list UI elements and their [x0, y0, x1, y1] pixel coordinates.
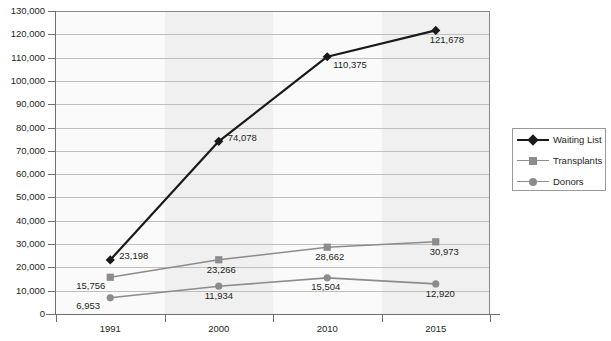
data-point-label: 121,678 [430, 35, 464, 45]
y-axis-tick [48, 104, 56, 105]
y-axis-tick [48, 128, 56, 129]
y-axis-tick [48, 11, 56, 12]
y-axis-tick-label: 10,000 [0, 286, 45, 296]
y-axis-tick [48, 197, 56, 198]
legend-label: Waiting List [549, 134, 602, 145]
x-axis-tick-label: 1991 [80, 324, 140, 334]
data-point-label: 28,662 [315, 252, 344, 262]
data-point-label: 12,920 [426, 289, 455, 299]
y-axis-tick-label: 90,000 [0, 99, 45, 109]
legend-label: Donors [549, 176, 584, 187]
gridline [56, 151, 490, 152]
background-band [382, 11, 491, 314]
data-point-label: 23,266 [207, 265, 236, 275]
legend-key [517, 154, 549, 168]
y-axis-tick-label: 100,000 [0, 76, 45, 86]
legend-key [517, 133, 549, 147]
gridline [56, 34, 490, 35]
y-axis-tick-label: 130,000 [0, 6, 45, 16]
gridline [56, 104, 490, 105]
gridline [56, 174, 490, 175]
x-axis-tick [273, 314, 274, 322]
x-axis-tick [490, 314, 491, 322]
y-axis-tick-label: 110,000 [0, 53, 45, 63]
data-point-label: 11,934 [205, 291, 233, 301]
gridline [56, 58, 490, 59]
chart-figure: 010,00020,00030,00040,00050,00060,00070,… [0, 0, 611, 341]
y-axis-tick-label: 20,000 [0, 262, 45, 272]
gridline [56, 197, 490, 198]
y-axis-tick [48, 291, 56, 292]
data-point-label: 15,756 [76, 281, 105, 291]
diamond-marker-icon [527, 134, 538, 145]
y-axis-tick [48, 151, 56, 152]
data-point-label: 30,973 [430, 247, 459, 257]
y-axis-tick-label: 60,000 [0, 169, 45, 179]
legend-item-donors[interactable]: Donors [513, 171, 607, 192]
gridline [56, 81, 490, 82]
y-axis-tick [48, 244, 56, 245]
legend-item-transplants[interactable]: Transplants [513, 150, 607, 171]
data-point-label: 6,953 [76, 301, 100, 311]
x-axis-tick-label: 2010 [297, 324, 357, 334]
square-marker-icon [529, 157, 537, 165]
y-axis-tick-label: 0 [0, 309, 45, 319]
gridline [56, 244, 490, 245]
gridline [56, 128, 490, 129]
y-axis-tick [48, 34, 56, 35]
x-axis-tick [382, 314, 383, 322]
y-axis-tick-label: 120,000 [0, 29, 45, 39]
y-axis-tick-label: 30,000 [0, 239, 45, 249]
y-axis-tick [48, 267, 56, 268]
y-axis-tick-label: 50,000 [0, 192, 45, 202]
y-axis-tick [48, 58, 56, 59]
y-axis-tick [48, 174, 56, 175]
gridline [56, 267, 490, 268]
legend-item-waiting-list[interactable]: Waiting List [513, 129, 607, 150]
chart-title-cutoff [62, 0, 462, 1]
data-point-label: 23,198 [119, 251, 148, 261]
y-axis-tick [48, 221, 56, 222]
plot-area [56, 11, 490, 314]
y-axis-tick-label: 40,000 [0, 216, 45, 226]
chart-legend: Waiting ListTransplantsDonors [512, 128, 606, 191]
x-axis-tick [56, 314, 57, 322]
data-point-label: 74,078 [228, 133, 257, 143]
y-axis-tick [48, 81, 56, 82]
x-axis-tick [165, 314, 166, 322]
x-axis-tick-label: 2015 [406, 324, 466, 334]
data-point-label: 110,375 [333, 60, 367, 70]
y-axis-line [55, 11, 56, 315]
x-axis-tick-label: 2000 [189, 324, 249, 334]
gridline [56, 221, 490, 222]
legend-label: Transplants [549, 155, 602, 166]
y-axis-tick-label: 70,000 [0, 146, 45, 156]
legend-key [517, 175, 549, 189]
y-axis-tick-label: 80,000 [0, 123, 45, 133]
circle-marker-icon [529, 178, 537, 186]
data-point-label: 15,504 [311, 282, 340, 292]
